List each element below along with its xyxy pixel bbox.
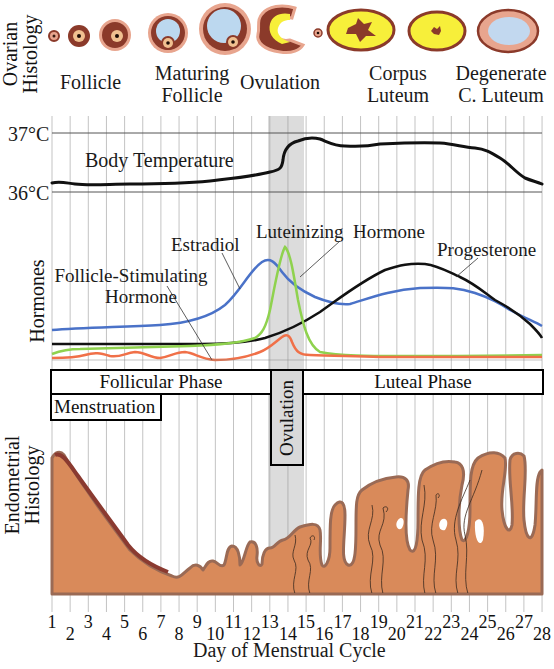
fsh-label: Follicle-Stimulating Hormone	[46, 266, 216, 306]
stage-label-degenerate-line2: C. Luteum	[448, 85, 554, 105]
follicular-phase-box: Follicular Phase	[50, 369, 272, 395]
ovulation-box: Ovulation	[270, 369, 304, 466]
menstruation-label: Menstruation	[54, 396, 155, 418]
ovarian-axis-label: Ovarian Histology	[0, 0, 40, 108]
x-axis-title: Day of Menstrual Cycle	[193, 640, 386, 660]
stage-label-corpus-line2: Luteum	[358, 85, 438, 105]
fsh-label-line2: Hormone	[46, 287, 216, 306]
estradiol-leader	[222, 253, 240, 289]
endometrial-axis-label: Endometrial Histology	[2, 420, 42, 550]
ovulation-band	[268, 116, 304, 594]
ovulation-label: Ovulation	[276, 380, 298, 456]
luteal-phase-label: Luteal Phase	[374, 371, 472, 393]
stage-label-degenerate-luteum: Degenerate C. Luteum	[448, 63, 554, 105]
temp-tick-36: 36°C	[8, 183, 49, 203]
stage-label-maturing-follicle: Maturing Follicle	[150, 63, 234, 105]
stage-label-follicle: Follicle	[60, 72, 121, 92]
endometrial-axis-label-line2: Histology	[22, 420, 42, 550]
stage-label-corpus-luteum: Corpus Luteum	[358, 63, 438, 105]
temp-tick-37: 37°C	[8, 124, 49, 144]
menstruation-box: Menstruation	[50, 393, 162, 421]
ovarian-axis-label-line1: Ovarian	[0, 0, 20, 108]
stage-label-maturing-line2: Follicle	[150, 85, 234, 105]
progesterone-leader	[456, 258, 478, 277]
hormones-axis-label: Hormones	[27, 254, 47, 348]
fsh-label-line1: Follicle-Stimulating	[46, 266, 216, 285]
body-temperature-label: Body Temperature	[85, 150, 234, 170]
ovarian-follicles	[49, 3, 538, 55]
stage-label-ovulation: Ovulation	[240, 72, 320, 92]
estradiol-label: Estradiol	[171, 235, 240, 254]
endometrial-axis-label-line1: Endometrial	[2, 420, 22, 550]
menstrual-cycle-diagram: Ovarian Histology Follicle Maturing Foll…	[0, 0, 554, 669]
lh-label: Luteinizing Hormone	[256, 222, 425, 241]
stage-label-degenerate-line1: Degenerate	[448, 63, 554, 83]
ovarian-axis-label-line2: Histology	[20, 0, 40, 108]
follicular-phase-label: Follicular Phase	[100, 371, 223, 393]
progesterone-label: Progesterone	[437, 240, 536, 259]
luteal-phase-box: Luteal Phase	[302, 369, 544, 395]
x-tick-day-28: 28	[530, 625, 554, 643]
stage-label-corpus-line1: Corpus	[358, 63, 438, 83]
stage-label-maturing-line1: Maturing	[150, 63, 234, 83]
